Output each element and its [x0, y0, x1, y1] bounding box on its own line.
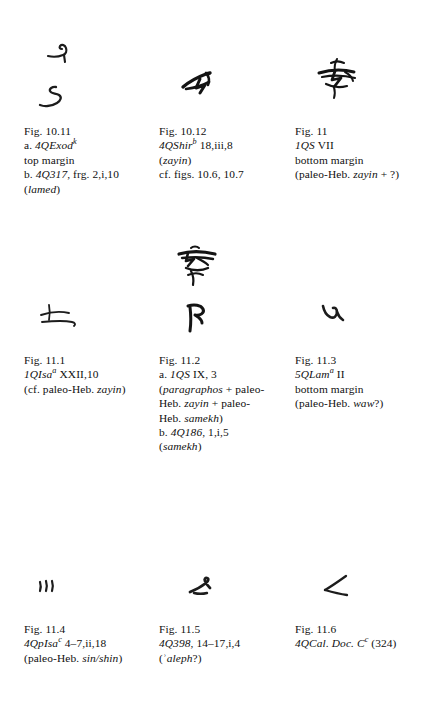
- paleo-hebrew-sin-shin-glyph: [36, 578, 64, 596]
- caption-line: (paleo-Heb. zayin + ?): [295, 167, 399, 181]
- caption-line: Fig. 11.4: [24, 622, 122, 636]
- caption-line: 4QCal. Doc. Cc (324): [295, 636, 397, 650]
- paragraphos-zayin-samekh-cluster-glyph: [175, 242, 219, 290]
- caption-line: 1QIsaa XXII,10: [24, 367, 126, 381]
- caption-fig-11-3: Fig. 11.3 5QLama II bottom margin (paleo…: [295, 353, 383, 411]
- caption-line: Fig. 11.3: [295, 353, 383, 367]
- figure-plate: Fig. 10.11 a. 4QExodk top margin b. 4Q31…: [0, 0, 433, 710]
- caption-line: Fig. 10.11: [24, 124, 119, 138]
- caption-line: (samekh): [159, 439, 264, 453]
- caption-fig-11-6: Fig. 11.6 4QCal. Doc. Cc (324): [295, 622, 397, 651]
- paleo-hebrew-aleph-glyph: [186, 573, 216, 599]
- caption-line: (paragraphos + paleo-: [159, 382, 264, 396]
- paleo-hebrew-angle-glyph: [320, 573, 352, 599]
- caption-line: bottom margin: [295, 153, 399, 167]
- caption-line: 4QShirb 18,iii,8: [159, 138, 244, 152]
- paleo-hebrew-samekh-glyph: [182, 300, 210, 334]
- caption-line: Fig. 11: [295, 124, 399, 138]
- caption-line: b. 4Q186, 1,i,5: [159, 425, 264, 439]
- caption-line: a. 1QS IX, 3: [159, 367, 264, 381]
- paleo-hebrew-lamed-glyph-a: [44, 38, 78, 64]
- caption-line: (paleo-Heb. waw?): [295, 396, 383, 410]
- caption-fig-11-2: Fig. 11.2 a. 1QS IX, 3 (paragraphos + pa…: [159, 353, 264, 454]
- caption-line: 4Q398, 14–17,i,4: [159, 636, 240, 650]
- caption-line: bottom margin: [295, 382, 383, 396]
- caption-fig-11-4: Fig. 11.4 4QpIsac 4–7,ii,18 (paleo-Heb. …: [24, 622, 122, 665]
- caption-line: Fig. 11.5: [159, 622, 240, 636]
- caption-line: Fig. 11.2: [159, 353, 264, 367]
- caption-line: a. 4QExodk: [24, 138, 119, 152]
- caption-line: (paleo-Heb. sin/shin): [24, 651, 122, 665]
- caption-line: 1QS VII: [295, 138, 399, 152]
- caption-line: 4QpIsac 4–7,ii,18: [24, 636, 122, 650]
- caption-fig-10-12: Fig. 10.12 4QShirb 18,iii,8 (zayin) cf. …: [159, 124, 244, 182]
- caption-line: (cf. paleo-Heb. zayin): [24, 382, 126, 396]
- caption-line: Fig. 11.1: [24, 353, 126, 367]
- caption-fig-11: Fig. 11 1QS VII bottom margin (paleo-Heb…: [295, 124, 399, 182]
- caption-line: Heb. samekh): [159, 411, 264, 425]
- caption-line: (lamed): [24, 182, 119, 196]
- paleo-hebrew-waw-glyph: [318, 300, 348, 326]
- caption-line: (zayin): [159, 153, 244, 167]
- caption-line: Fig. 10.12: [159, 124, 244, 138]
- caption-line: b. 4Q317, frg. 2,i,10: [24, 167, 119, 181]
- paleo-hebrew-lamed-glyph-b: [36, 82, 74, 110]
- caption-fig-10-11: Fig. 10.11 a. 4QExodk top margin b. 4Q31…: [24, 124, 119, 196]
- caption-line: top margin: [24, 153, 119, 167]
- caption-line: Fig. 11.6: [295, 622, 397, 636]
- caption-line: (ʾaleph?): [159, 651, 240, 665]
- paleo-hebrew-zayin-glyph: [178, 68, 220, 100]
- caption-line: 5QLama II: [295, 367, 383, 381]
- caption-line: cf. figs. 10.6, 10.7: [159, 167, 244, 181]
- caption-fig-11-1: Fig. 11.1 1QIsaa XXII,10 (cf. paleo-Heb.…: [24, 353, 126, 396]
- caption-fig-11-5: Fig. 11.5 4Q398, 14–17,i,4 (ʾaleph?): [159, 622, 240, 665]
- paleo-hebrew-zayin-cursive-glyph: [36, 300, 80, 330]
- paleo-hebrew-zayin-cluster-glyph: [314, 56, 362, 102]
- caption-line: Heb. zayin + paleo-: [159, 396, 264, 410]
